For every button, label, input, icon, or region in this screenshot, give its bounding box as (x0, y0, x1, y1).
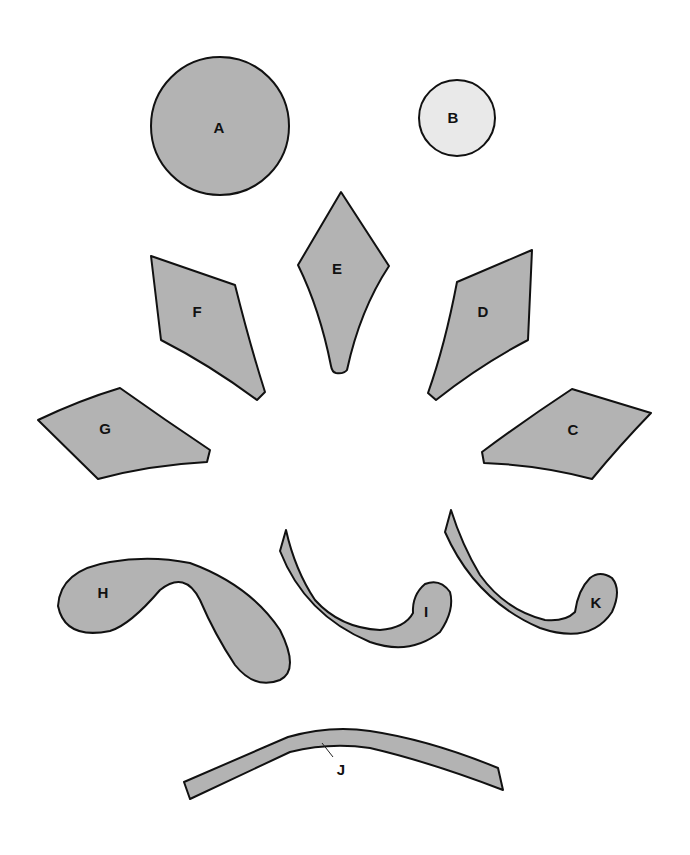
piece-a: A (151, 57, 289, 195)
piece-i-shape (280, 530, 451, 647)
piece-b: B (419, 80, 495, 156)
piece-g: G (38, 388, 210, 479)
piece-c-label: C (568, 421, 579, 438)
piece-c: C (482, 389, 651, 479)
piece-i-label: I (424, 603, 428, 620)
piece-k: K (445, 510, 617, 634)
piece-c-shape (482, 389, 651, 479)
piece-k-shape (445, 510, 617, 634)
piece-a-label: A (214, 119, 225, 136)
piece-d-label: D (478, 303, 489, 320)
piece-k-label: K (591, 594, 602, 611)
piece-j-label: J (337, 761, 345, 778)
piece-g-label: G (99, 420, 111, 437)
piece-g-shape (38, 388, 210, 479)
pattern-pieces-diagram: A B E F D G C H I K (0, 0, 690, 855)
piece-d-shape (428, 250, 532, 400)
piece-e: E (298, 192, 389, 373)
piece-f: F (151, 256, 265, 400)
piece-b-label: B (448, 109, 459, 126)
piece-f-label: F (192, 303, 201, 320)
piece-e-label: E (332, 260, 342, 277)
piece-h-label: H (98, 584, 109, 601)
piece-d: D (428, 250, 532, 400)
piece-e-shape (298, 192, 389, 373)
piece-i: I (280, 530, 451, 647)
piece-h: H (58, 559, 290, 683)
piece-h-shape (58, 559, 290, 683)
piece-j: J (184, 729, 503, 799)
piece-f-shape (151, 256, 265, 400)
